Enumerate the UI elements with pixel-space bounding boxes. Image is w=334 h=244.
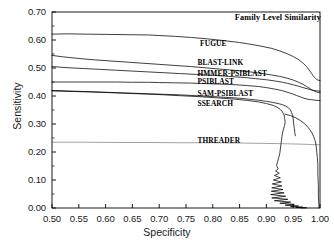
y-tick-label: 0.30 bbox=[28, 118, 46, 129]
y-tick-label: 0.40 bbox=[28, 90, 46, 101]
series-label-ssearch: SSEARCH bbox=[197, 99, 233, 108]
series-label-threader: THREADER bbox=[197, 136, 240, 145]
series-label-hmmer-psiblast: HMMER-PSIBLAST bbox=[197, 69, 267, 78]
axis-ticks bbox=[52, 12, 320, 208]
y-tick-label: 0.00 bbox=[28, 202, 46, 213]
y-axis-title: Sensitivity bbox=[11, 51, 23, 161]
series-label-blast-link: BLAST-LINK bbox=[197, 58, 243, 67]
data-curves bbox=[52, 34, 320, 208]
chart-figure: Family Level Similarity 0.000.100.200.30… bbox=[0, 0, 334, 244]
x-tick-label: 1.00 bbox=[304, 213, 334, 224]
series-label-psiblast: PSIBLAST bbox=[197, 77, 234, 86]
series-label-sam-psiblast: SAM-PSIBLAST bbox=[197, 89, 253, 98]
chart-plot-area bbox=[0, 0, 334, 244]
chart-title-annotation: Family Level Similarity bbox=[235, 13, 321, 22]
series-line-sam-psiblast bbox=[52, 90, 295, 135]
axes-frame bbox=[52, 12, 320, 208]
y-tick-label: 0.20 bbox=[28, 146, 46, 157]
y-tick-label: 0.60 bbox=[28, 34, 46, 45]
series-line-hmmer-psiblast bbox=[52, 67, 320, 92]
y-tick-label: 0.70 bbox=[28, 6, 46, 17]
series-label-fugue: FUGUE bbox=[200, 39, 226, 48]
series-line-threader bbox=[52, 142, 320, 145]
series-line-ssearch-upper-branch bbox=[285, 114, 319, 208]
y-tick-label: 0.50 bbox=[28, 62, 46, 73]
x-axis-title: Specificity bbox=[0, 226, 334, 238]
series-line-ssearch bbox=[52, 91, 307, 208]
series-line-psiblast bbox=[52, 82, 320, 100]
y-tick-label: 0.10 bbox=[28, 174, 46, 185]
